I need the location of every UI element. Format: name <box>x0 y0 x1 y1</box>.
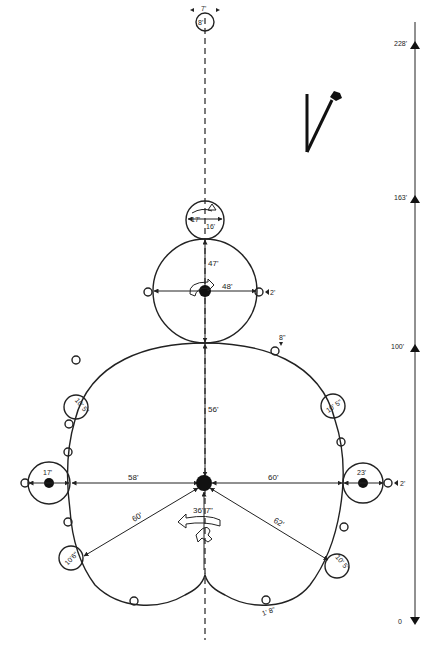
top-circle-height-label: 8' <box>198 19 203 26</box>
scale-tick-100: 100' <box>391 343 404 350</box>
top-right-marker-label: 8" <box>279 334 286 341</box>
right-hand-side-label: 2' <box>400 480 405 487</box>
right-hand-label: 23' <box>357 469 366 476</box>
left-hand-circle: 17' <box>21 462 70 504</box>
diagram-canvas: 7' 8' 17' 16' 47' 48' 2' 56' 58' 60' 60' <box>0 0 447 653</box>
head-width-label: 17' <box>191 216 200 223</box>
scale-tick-0: 0 <box>398 618 402 625</box>
bottom-marker-label: 1' 8" <box>261 606 277 617</box>
rotation-arrow-icon <box>178 514 220 528</box>
main-right-label: 60' <box>268 473 279 482</box>
scale-tick-228: 228' <box>394 40 407 47</box>
left-hand-label: 17' <box>43 469 52 476</box>
upper-body-circle: 47' 48' 2' <box>144 239 275 343</box>
upper-left-small-circle: 10' 5" <box>64 395 91 419</box>
lower-left-small-label: 10'6" <box>63 550 79 566</box>
main-left-label: 58' <box>128 473 139 482</box>
upper-horizontal-label: 48' <box>222 282 233 291</box>
scale-tick-163: 163' <box>394 194 407 201</box>
top-circle-width-label: 7' <box>201 5 206 12</box>
upper-side-marker-label: 2' <box>270 289 275 296</box>
head-height-label: 16' <box>206 223 215 230</box>
right-hand-circle: 23' 2' <box>343 463 405 503</box>
north-arrow-icon <box>307 91 342 152</box>
scale-bar: 228' 163' 100' 0 <box>391 22 420 625</box>
main-center-dot <box>196 475 212 491</box>
upper-vertical-label: 47' <box>208 259 219 268</box>
main-vertical-label: 56' <box>208 405 219 414</box>
main-bottom-vertical-label: 36' 7" <box>193 506 213 515</box>
lower-right-small-circle: 10' 5" <box>325 553 351 578</box>
